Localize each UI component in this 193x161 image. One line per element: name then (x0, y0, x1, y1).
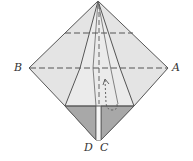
shaded-flap-left (65, 106, 96, 140)
label-a: A (172, 62, 180, 73)
label-c: C (100, 142, 108, 153)
origami-diagram (0, 0, 193, 161)
label-d: D (84, 142, 93, 153)
shaded-flap-right (101, 106, 134, 140)
label-b: B (14, 62, 22, 73)
center-slit (96, 106, 101, 140)
